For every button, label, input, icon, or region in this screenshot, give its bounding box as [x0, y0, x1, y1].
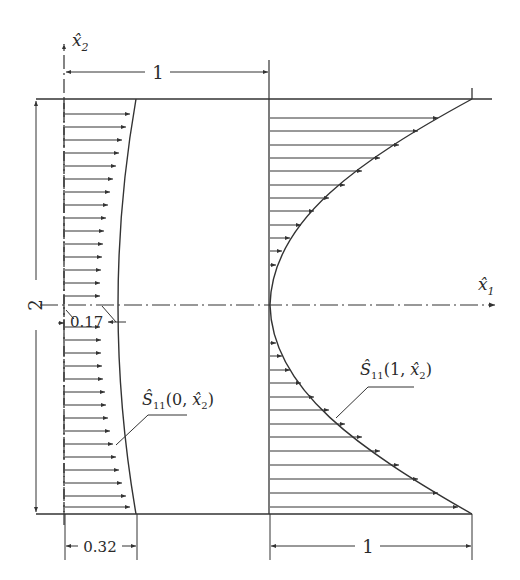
left-stress-arrows	[65, 114, 130, 507]
right-stress-curve	[270, 99, 472, 514]
right-stress-arrows	[270, 118, 458, 507]
right-curve-label: Ŝ11(1, x̂2)	[360, 359, 432, 381]
left-curve-label: Ŝ11(0, x̂2)	[142, 389, 214, 411]
top-dimension	[66, 60, 269, 99]
min-value-label: 0.17	[70, 313, 103, 331]
height-dimension-label: 2	[25, 299, 46, 310]
x2-axis-label: x̂2	[72, 30, 89, 54]
stress-diagram: x̂2 x̂1 1 2	[0, 0, 520, 580]
top-dimension-label: 1	[152, 62, 163, 83]
beam-outline	[36, 88, 492, 514]
x1-axis-label: x̂1	[478, 274, 495, 298]
left-stress-curve	[118, 99, 136, 514]
left-edge-value-label: 0.32	[83, 538, 116, 556]
left-curve-leader	[116, 415, 187, 445]
right-edge-value-label: 1	[362, 536, 373, 557]
right-curve-leader	[336, 387, 414, 418]
